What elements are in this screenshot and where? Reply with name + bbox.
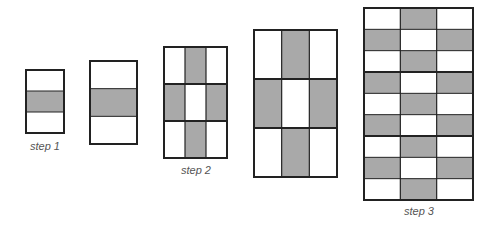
- step2b-figure: [254, 30, 337, 177]
- shaded-cell: [185, 121, 206, 158]
- step2-figure: [164, 47, 227, 158]
- shaded-cell: [254, 79, 282, 128]
- shaded-cell: [364, 72, 400, 93]
- step-2-label: step 2: [181, 164, 211, 176]
- shaded-cell: [282, 128, 310, 177]
- shaded-cell: [164, 84, 185, 121]
- step1-figure: [26, 70, 64, 133]
- shaded-cell: [400, 179, 436, 200]
- shaded-cell: [282, 30, 310, 79]
- shaded-cell: [437, 157, 473, 178]
- shaded-cell: [364, 115, 400, 136]
- step-3-label: step 3: [404, 205, 434, 217]
- pattern-diagram: [0, 0, 500, 227]
- shaded-cell: [309, 79, 337, 128]
- step1b-figure: [90, 61, 137, 144]
- shaded-cell: [206, 84, 227, 121]
- step-1-label: step 1: [30, 140, 60, 152]
- shaded-cell: [364, 29, 400, 50]
- shaded-cell: [364, 157, 400, 178]
- shaded-cell: [400, 51, 436, 72]
- shaded-cell: [400, 136, 436, 157]
- step3-figure: [364, 8, 473, 200]
- shaded-cell: [437, 115, 473, 136]
- shaded-cell: [26, 91, 64, 112]
- shaded-cell: [90, 89, 137, 117]
- shaded-cell: [400, 93, 436, 114]
- shaded-cell: [400, 8, 436, 29]
- shaded-cell: [185, 47, 206, 84]
- shaded-cell: [437, 72, 473, 93]
- shaded-cell: [437, 29, 473, 50]
